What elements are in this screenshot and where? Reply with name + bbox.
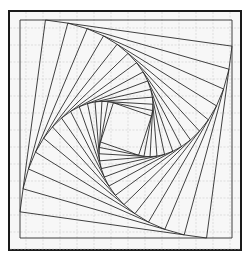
- spiral-drawing: [0, 0, 249, 263]
